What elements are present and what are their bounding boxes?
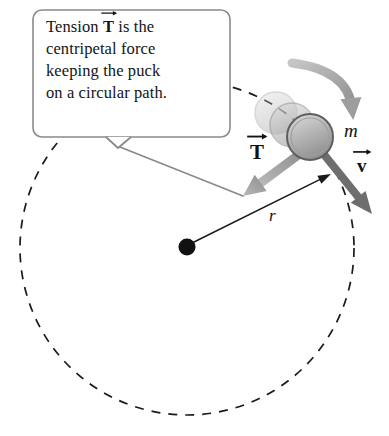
tension-symbol-inline: T [103, 16, 114, 38]
velocity-symbol: v [357, 155, 367, 176]
callout-symbol-T: T [103, 17, 114, 36]
callout-word-isthe: is the [118, 17, 154, 36]
callout-word-tension: Tension [46, 17, 99, 36]
callout-line-3: keeping the puck [46, 60, 222, 82]
mass-label: m [344, 120, 358, 142]
center-pivot-dot [179, 239, 196, 256]
velocity-label-symbol: v [357, 155, 367, 177]
callout-line-4: on a circular path. [46, 82, 222, 104]
callout-text: Tension T is the centripetal force keepi… [46, 16, 222, 104]
callout-line-2: centripetal force [46, 38, 222, 60]
figure-canvas: Tension T is the centripetal force keepi… [0, 0, 389, 436]
radius-label: r [269, 206, 276, 226]
velocity-label: v [357, 155, 367, 177]
puck-body [287, 114, 333, 160]
tension-symbol: T [250, 140, 264, 164]
callout-line-1: Tension T is the [46, 16, 222, 38]
tension-label: T [250, 140, 264, 165]
tension-label-symbol: T [250, 140, 264, 165]
